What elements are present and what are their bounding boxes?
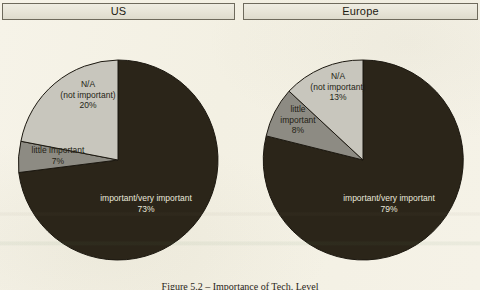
panel-title-bar-europe: Europe <box>243 3 478 20</box>
panel-title-europe: Europe <box>342 6 379 17</box>
pie-svg-europe <box>262 59 464 261</box>
pie-chart-europe: N/A (not important) 13% little important… <box>262 59 464 261</box>
charts-container: US N/A (not important) 20% little import… <box>0 0 480 290</box>
figure-caption: Figure 5.2 – Importance of Tech. Level <box>0 281 480 290</box>
panel-title-bar-us: US <box>2 3 235 20</box>
pie-chart-us: N/A (not important) 20% little important… <box>17 59 219 261</box>
pie-svg-us <box>17 59 219 261</box>
panel-title-us: US <box>111 6 127 17</box>
